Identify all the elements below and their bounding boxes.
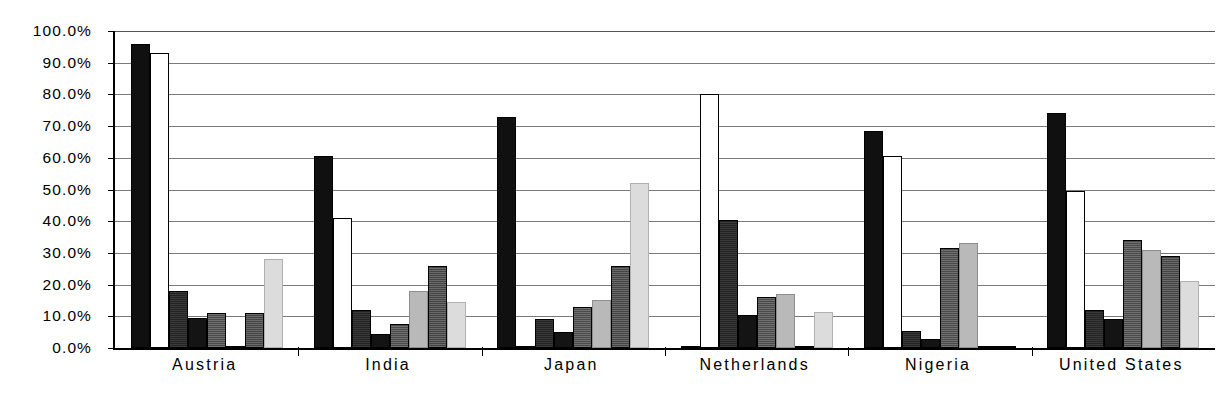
y-axis-tick <box>108 63 115 64</box>
bar <box>497 117 516 348</box>
bar <box>611 266 630 348</box>
bar <box>1142 250 1161 348</box>
bar <box>738 315 757 348</box>
bar <box>1161 256 1180 348</box>
category-separator <box>482 347 483 356</box>
bar <box>447 302 466 348</box>
bar-group <box>115 31 298 348</box>
bar <box>978 346 997 348</box>
y-tick-label: 90.0% <box>0 54 92 72</box>
bar <box>1085 310 1104 348</box>
bar-chart: 100.0%90.0%80.0%70.0%60.0%50.0%40.0%30.0… <box>0 0 1229 398</box>
bar <box>719 220 738 348</box>
x-tick-label: United States <box>1030 356 1213 396</box>
bar <box>245 313 264 348</box>
bar <box>1104 319 1123 348</box>
y-axis-tick <box>108 253 115 254</box>
bar-group <box>1032 31 1215 348</box>
bar <box>700 94 719 348</box>
bar <box>428 266 447 348</box>
category-separator <box>665 347 666 356</box>
bar <box>776 294 795 348</box>
y-tick-label: 20.0% <box>0 276 92 294</box>
bar <box>940 248 959 348</box>
bar <box>1180 281 1199 348</box>
x-tick-label: India <box>296 356 479 396</box>
y-axis-tick <box>108 348 115 349</box>
bar <box>207 313 226 348</box>
bar <box>371 334 390 348</box>
bar <box>864 131 883 348</box>
bar <box>1066 191 1085 348</box>
bar <box>573 307 592 348</box>
y-axis-tick <box>108 316 115 317</box>
y-axis-tick <box>108 31 115 32</box>
bar <box>409 291 428 348</box>
y-tick-label: 80.0% <box>0 85 92 103</box>
y-tick-label: 10.0% <box>0 307 92 325</box>
category-separator <box>1032 347 1033 356</box>
y-axis-tick <box>108 285 115 286</box>
bar <box>592 300 611 348</box>
bar-group <box>298 31 481 348</box>
bar-group <box>482 31 665 348</box>
y-tick-label: 60.0% <box>0 149 92 167</box>
bar <box>226 346 245 348</box>
bar <box>150 53 169 348</box>
x-axis-labels: AustriaIndiaJapanNetherlandsNigeriaUnite… <box>113 356 1213 396</box>
x-tick-label: Nigeria <box>846 356 1029 396</box>
bar <box>516 346 535 348</box>
bar <box>681 346 700 348</box>
x-tick-label: Netherlands <box>663 356 846 396</box>
bar <box>630 183 649 348</box>
y-tick-label: 40.0% <box>0 212 92 230</box>
bar <box>1123 240 1142 348</box>
bar-group <box>665 31 848 348</box>
bar <box>314 156 333 348</box>
x-tick-label: Japan <box>480 356 663 396</box>
bar <box>390 324 409 348</box>
y-tick-label: 0.0% <box>0 339 92 357</box>
y-axis-tick <box>108 126 115 127</box>
y-axis-tick <box>108 94 115 95</box>
bar <box>814 312 833 348</box>
bar <box>169 291 188 348</box>
bar <box>188 318 207 348</box>
bar <box>795 346 814 348</box>
bar <box>959 243 978 348</box>
bar <box>921 339 940 349</box>
plot-area <box>113 31 1215 350</box>
bar <box>333 218 352 348</box>
y-axis-tick <box>108 221 115 222</box>
y-tick-label: 50.0% <box>0 181 92 199</box>
y-tick-label: 100.0% <box>0 22 92 40</box>
bar <box>757 297 776 348</box>
bar <box>264 259 283 348</box>
bar <box>131 44 150 348</box>
y-tick-label: 30.0% <box>0 244 92 262</box>
category-separator <box>298 347 299 356</box>
bar-group <box>848 31 1031 348</box>
y-axis-tick <box>108 190 115 191</box>
bar <box>997 346 1016 348</box>
y-axis-tick <box>108 158 115 159</box>
bar <box>883 156 902 348</box>
category-separator <box>848 347 849 356</box>
bar <box>352 310 371 348</box>
bar <box>535 319 554 348</box>
bar <box>902 331 921 348</box>
bar <box>554 332 573 348</box>
y-axis-labels: 100.0%90.0%80.0%70.0%60.0%50.0%40.0%30.0… <box>0 0 92 360</box>
bar <box>1047 113 1066 348</box>
y-tick-label: 70.0% <box>0 117 92 135</box>
bar-groups <box>115 31 1215 348</box>
x-tick-label: Austria <box>113 356 296 396</box>
